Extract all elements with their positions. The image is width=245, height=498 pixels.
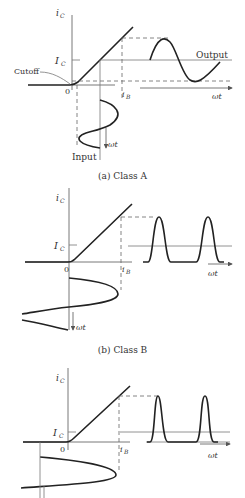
- svg-text:C: C: [60, 377, 65, 384]
- svg-text:ωt: ωt: [76, 323, 87, 332]
- svg-text:Cutoff: Cutoff: [14, 67, 40, 76]
- panel-class-c: iC IC 0 iB ωt: [21, 368, 230, 498]
- svg-text:i: i: [56, 193, 59, 203]
- svg-text:I: I: [53, 240, 59, 251]
- svg-text:i: i: [122, 265, 125, 274]
- svg-text:C: C: [60, 12, 65, 19]
- amplifier-class-diagram: iC IC Cutoff 0 iB Output ωt ωt Input iC …: [0, 0, 245, 498]
- svg-text:ωt: ωt: [212, 92, 223, 101]
- svg-text:I: I: [52, 427, 58, 438]
- svg-text:C: C: [61, 60, 66, 67]
- svg-text:B: B: [125, 268, 131, 275]
- svg-text:ωt: ωt: [208, 269, 219, 278]
- svg-text:i: i: [56, 8, 59, 18]
- svg-text:i: i: [56, 373, 59, 383]
- svg-text:0: 0: [60, 445, 65, 454]
- svg-text:B: B: [125, 93, 131, 100]
- svg-text:Output: Output: [196, 50, 228, 60]
- caption-class-b: (b) Class B: [0, 345, 245, 355]
- svg-text:0: 0: [65, 87, 70, 96]
- svg-text:Input: Input: [72, 152, 97, 162]
- svg-text:i: i: [120, 445, 123, 454]
- panel-class-b: iC IC 0 iB ωt ωt: [22, 188, 232, 332]
- svg-text:C: C: [60, 197, 65, 204]
- panel-class-a: iC IC Cutoff 0 iB Output ωt ωt Input: [14, 8, 232, 162]
- svg-text:C: C: [59, 432, 64, 439]
- svg-text:C: C: [60, 245, 65, 252]
- caption-class-a: (a) Class A: [0, 171, 245, 181]
- svg-text:I: I: [54, 55, 60, 66]
- svg-text:ωt: ωt: [108, 140, 119, 149]
- svg-text:0: 0: [64, 265, 69, 274]
- svg-text:i: i: [122, 90, 125, 99]
- svg-text:B: B: [123, 448, 129, 455]
- svg-text:ωt: ωt: [208, 451, 219, 460]
